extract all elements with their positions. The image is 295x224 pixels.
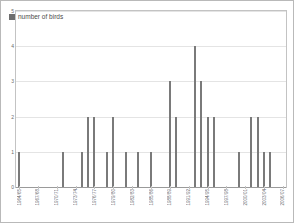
bar	[213, 117, 215, 187]
y-tick-label: 3	[11, 79, 14, 84]
bar	[207, 117, 209, 187]
x-tick-label: 1988/89	[167, 189, 172, 206]
bar-series	[16, 11, 286, 187]
plot-area: 012345	[16, 11, 286, 187]
y-tick-label: 4	[11, 44, 14, 49]
x-tick-label: 1979/80	[111, 189, 116, 206]
y-tick-label: 0	[11, 185, 14, 190]
bar	[200, 81, 202, 187]
bar	[169, 81, 171, 187]
x-tick-label: 1985/86	[149, 189, 154, 206]
bar	[175, 117, 177, 187]
y-tick-label: 1	[11, 149, 14, 154]
x-tick-label: 1982/83	[130, 189, 135, 206]
bar	[137, 152, 139, 187]
bar	[93, 117, 95, 187]
bar	[269, 152, 271, 187]
legend-label: number of birds	[18, 13, 63, 20]
x-tick-label: 2000/01	[243, 189, 248, 206]
x-tick-label: 1964/65	[17, 189, 22, 206]
x-axis-labels: 1964/651967/681970/711973/741976/771979/…	[16, 189, 286, 223]
bar	[263, 152, 265, 187]
bar	[257, 117, 259, 187]
x-tick-label: 2006/07	[280, 189, 285, 206]
bar	[238, 152, 240, 187]
chart-frame: 012345 number of birds 1964/651967/68197…	[0, 0, 294, 223]
x-tick-label: 1976/77	[92, 189, 97, 206]
bar	[194, 46, 196, 187]
x-tick-label: 1970/71	[54, 189, 59, 206]
x-tick-label: 2003/04	[262, 189, 267, 206]
legend-swatch-number-of-birds	[9, 14, 15, 20]
x-tick-label: 1967/68	[35, 189, 40, 206]
x-tick-label: 1973/74	[73, 189, 78, 206]
bar	[106, 152, 108, 187]
bar	[250, 117, 252, 187]
y-tick-label: 2	[11, 114, 14, 119]
x-tick-label: 1997/98	[224, 189, 229, 206]
bar	[18, 152, 20, 187]
bar	[150, 152, 152, 187]
bar	[125, 152, 127, 187]
x-tick-label: 1991/92	[186, 189, 191, 206]
x-tick-label: 1994/95	[205, 189, 210, 206]
bar	[87, 117, 89, 187]
bar	[62, 152, 64, 187]
bar	[112, 117, 114, 187]
legend: number of birds	[9, 13, 63, 20]
bar	[81, 152, 83, 187]
